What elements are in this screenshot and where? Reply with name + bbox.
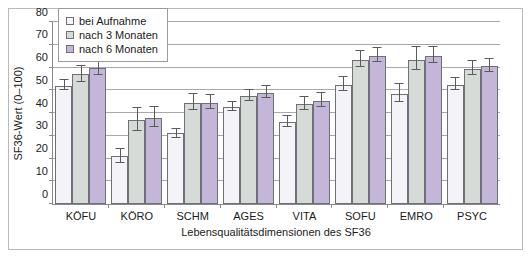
error-bar-cap — [132, 130, 141, 131]
error-bar-cap — [283, 126, 292, 127]
bar-group-bars — [332, 22, 388, 204]
error-bar — [154, 107, 155, 128]
bar-group: SCHM — [165, 22, 221, 204]
bar[interactable] — [279, 122, 296, 204]
bar-slot — [257, 22, 274, 204]
x-tick-label-köfu: KÖFU — [53, 210, 109, 222]
error-bar-cap — [227, 110, 236, 111]
bar[interactable] — [481, 66, 498, 204]
bar-group-bars — [388, 22, 444, 204]
bar[interactable] — [408, 60, 425, 204]
y-tick-label: 40 — [36, 97, 48, 108]
legend-item[interactable]: bei Aufnahme — [66, 14, 158, 28]
bar-slot — [279, 22, 296, 204]
bar[interactable] — [296, 104, 313, 204]
error-bar-cap — [171, 137, 180, 138]
y-tick-label: 50 — [36, 74, 48, 85]
bar[interactable] — [447, 85, 464, 204]
legend-swatch-icon — [66, 17, 74, 25]
error-bar-cap — [317, 106, 326, 107]
error-bar-cap — [395, 83, 404, 84]
chart-figure: SF36-Wert (0–100) 01020304050607080 KÖFU… — [0, 0, 531, 266]
x-tick-mark — [331, 204, 332, 208]
legend-item-label: nach 3 Monaten — [79, 29, 158, 41]
bar[interactable] — [425, 56, 442, 204]
error-bar — [399, 84, 400, 102]
bar[interactable] — [369, 56, 386, 204]
bar[interactable] — [352, 60, 369, 204]
bar-slot — [296, 22, 313, 204]
error-bar-cap — [132, 107, 141, 108]
x-axis-title: Lebensqualitätsdimensionen des SF36 — [52, 226, 500, 238]
bar-slot — [369, 22, 386, 204]
bar[interactable] — [184, 103, 201, 204]
bar[interactable] — [111, 156, 128, 204]
error-bar-cap — [429, 62, 438, 63]
y-tick-label: 60 — [36, 52, 48, 63]
bar-slot — [184, 22, 201, 204]
bar-group-bars — [221, 22, 277, 204]
error-bar-cap — [115, 148, 124, 149]
error-bar-cap — [115, 162, 124, 163]
error-bar-cap — [300, 96, 309, 97]
bar[interactable] — [89, 68, 106, 205]
bar[interactable] — [72, 74, 89, 204]
x-tick-mark — [276, 204, 277, 208]
bar-slot — [335, 22, 352, 204]
error-bar-cap — [485, 58, 494, 59]
bar[interactable] — [313, 101, 330, 205]
bar[interactable] — [335, 85, 352, 204]
bar[interactable] — [128, 120, 145, 204]
error-bar — [81, 66, 82, 82]
error-bar-cap — [244, 100, 253, 101]
bar[interactable] — [257, 93, 274, 204]
legend-item[interactable]: nach 3 Monaten — [66, 28, 158, 42]
bar[interactable] — [223, 107, 240, 204]
legend-swatch-icon — [66, 31, 74, 39]
bar[interactable] — [240, 96, 257, 204]
error-bar — [193, 94, 194, 110]
bar-group: AGES — [221, 22, 277, 204]
bar-slot — [313, 22, 330, 204]
x-tick-label-schm: SCHM — [165, 210, 221, 222]
bar[interactable] — [201, 103, 218, 204]
error-bar-cap — [283, 115, 292, 116]
error-bar-cap — [468, 74, 477, 75]
y-tick-label: 80 — [36, 6, 48, 17]
error-bar-cap — [412, 46, 421, 47]
x-tick-label-ages: AGES — [221, 210, 277, 222]
error-bar-cap — [339, 76, 348, 77]
bar[interactable] — [464, 69, 481, 204]
error-bar — [433, 47, 434, 63]
bar[interactable] — [167, 133, 184, 204]
legend-item-label: nach 6 Monaten — [79, 43, 158, 55]
bar[interactable] — [55, 86, 72, 204]
error-bar-cap — [356, 50, 365, 51]
x-tick-mark — [108, 204, 109, 208]
bar-slot — [352, 22, 369, 204]
bar-slot — [481, 22, 498, 204]
error-bar-cap — [261, 97, 270, 98]
bar[interactable] — [145, 118, 162, 204]
bar[interactable] — [391, 94, 408, 204]
legend-item[interactable]: nach 6 Monaten — [66, 42, 158, 56]
error-bar — [472, 61, 473, 75]
bar-slot — [223, 22, 240, 204]
error-bar-cap — [317, 92, 326, 93]
bar-slot — [240, 22, 257, 204]
error-bar-cap — [59, 79, 68, 80]
x-tick-label-köro: KÖRO — [109, 210, 165, 222]
x-tick-label-vita: VITA — [277, 210, 333, 222]
error-bar-cap — [429, 46, 438, 47]
error-bar-cap — [205, 108, 214, 109]
error-bar-cap — [261, 85, 270, 86]
error-bar-cap — [373, 47, 382, 48]
error-bar-cap — [227, 101, 236, 102]
error-bar-cap — [171, 128, 180, 129]
bar-slot — [167, 22, 184, 204]
bar-group-bars — [444, 22, 500, 204]
bar-slot — [425, 22, 442, 204]
error-bar — [210, 95, 211, 109]
chart-legend: bei Aufnahmenach 3 Monatennach 6 Monaten — [58, 8, 168, 62]
error-bar-cap — [93, 74, 102, 75]
